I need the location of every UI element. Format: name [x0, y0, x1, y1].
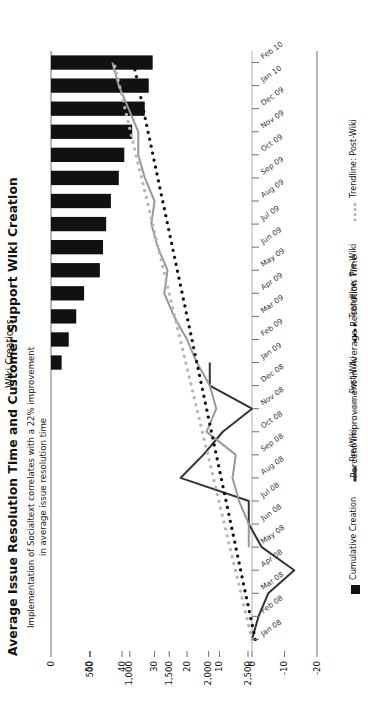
percent-tick-label: 10 — [214, 661, 224, 672]
month-label: Nov 09 — [259, 108, 286, 131]
bar — [51, 309, 76, 323]
month-label: Aug 09 — [259, 177, 286, 200]
percent-tick-label: -10 — [279, 661, 289, 675]
month-label: Oct 08 — [259, 409, 285, 431]
month-label: Mar 09 — [259, 293, 285, 315]
legend-square-swatch-icon — [351, 585, 360, 594]
line-series-path — [133, 63, 255, 640]
month-label: May 08 — [259, 523, 287, 546]
bar — [51, 125, 132, 139]
bar-series — [51, 55, 153, 369]
legend-item-label: Pre-Wiki — [348, 429, 358, 461]
month-label: Feb 10 — [259, 39, 285, 61]
bar — [51, 171, 119, 185]
bar — [51, 355, 62, 369]
wiki-tick-label: 1,500 — [164, 661, 174, 686]
figure: Average Issue Resolution Time and Custom… — [0, 0, 368, 706]
month-label: Sep 09 — [259, 154, 285, 176]
bar — [51, 55, 153, 69]
month-label: Jan 08 — [258, 617, 283, 638]
month-label: Jul 09 — [258, 203, 281, 223]
wiki-tick-label: 2,000 — [203, 661, 213, 686]
bottom-axis: 50403020100-10-20 — [84, 51, 321, 675]
legend-item-label: Trendline: Post-Wiki — [348, 119, 358, 199]
bar — [51, 286, 84, 300]
percent-tick-label: 40 — [117, 661, 127, 672]
percent-tick-label: 0 — [247, 661, 257, 666]
month-label: Apr 09 — [259, 270, 285, 292]
month-label: Sep 08 — [259, 431, 285, 453]
month-label: Dec 09 — [259, 85, 286, 107]
month-label: May 09 — [259, 246, 287, 269]
month-label: Apr 08 — [259, 547, 285, 569]
bar — [51, 240, 103, 254]
month-label: Jun 08 — [258, 502, 283, 523]
top-axis: 05001,0001,5002,0002,500 — [46, 51, 253, 686]
percent-tick-label: 30 — [149, 661, 159, 672]
month-label: Feb 09 — [259, 316, 285, 338]
bar — [51, 78, 149, 92]
wiki-tick-label: 0 — [46, 661, 56, 666]
percent-tick-label: -20 — [312, 661, 322, 675]
month-label: Jan 09 — [258, 340, 283, 361]
month-label: Oct 09 — [259, 132, 285, 154]
chart-screenshot: Average Issue Resolution Time and Custom… — [0, 0, 368, 706]
percent-tick-label: 50 — [84, 661, 94, 672]
month-label: Jan 10 — [258, 63, 283, 84]
month-label: Nov 08 — [259, 385, 286, 408]
bar — [51, 148, 124, 162]
percent-tick-label: 20 — [182, 661, 192, 672]
bar — [51, 194, 111, 208]
plot-area: 05001,0001,5002,0002,500 50403020100-10-… — [0, 0, 368, 706]
legend-item-label: Post-Wiki — [348, 357, 358, 394]
legend-item-label: Trendline: Pre-Wiki — [348, 244, 358, 320]
month-label: Jun 09 — [258, 225, 283, 246]
bar — [51, 263, 100, 277]
bar — [51, 332, 69, 346]
line-series-path — [114, 63, 252, 640]
month-label: Aug 08 — [259, 454, 286, 477]
legend: Cumulative CreationPre-WikiPost-WikiTren… — [348, 119, 360, 594]
month-label: Dec 08 — [259, 362, 286, 384]
legend-item-label: Cumulative Creation — [348, 497, 358, 580]
bar — [51, 217, 106, 231]
month-tick-labels: Jan 08Feb 08Mar 08Apr 08May 08Jun 08Jul … — [252, 39, 287, 639]
month-label: Feb 08 — [259, 593, 285, 615]
month-label: Jul 08 — [258, 480, 281, 500]
